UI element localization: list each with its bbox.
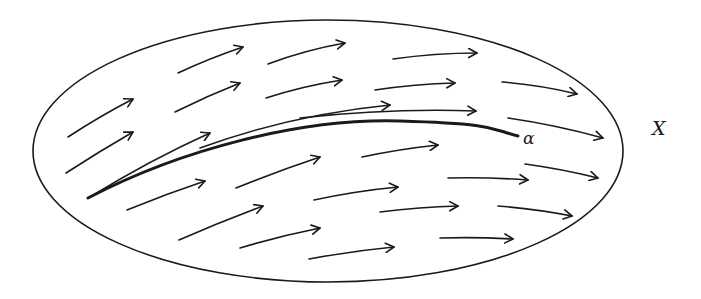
vector-field-diagram xyxy=(0,0,701,299)
curve-alpha-label: α xyxy=(523,130,534,147)
vector-arrow xyxy=(66,132,133,173)
region-X-boundary xyxy=(33,20,623,282)
vector-arrow xyxy=(362,145,438,157)
vector-arrow xyxy=(380,206,458,212)
vector-arrow xyxy=(236,157,320,188)
vector-arrow xyxy=(448,178,528,180)
vector-arrow xyxy=(200,105,390,148)
vector-arrow xyxy=(393,53,477,59)
vector-arrow xyxy=(179,206,263,240)
vector-field-arrows xyxy=(66,43,603,259)
vector-arrow xyxy=(268,43,345,64)
vector-arrow xyxy=(375,83,455,90)
vector-arrow xyxy=(178,47,243,73)
vector-arrow xyxy=(498,206,572,216)
vector-arrow xyxy=(266,80,342,98)
region-X-label: X xyxy=(652,119,666,138)
vector-arrow xyxy=(502,82,577,94)
curve-alpha xyxy=(88,121,518,198)
vector-arrow xyxy=(127,181,205,210)
vector-arrow xyxy=(175,83,240,112)
vector-arrow xyxy=(525,164,598,178)
vector-arrow xyxy=(440,238,513,239)
vector-arrow xyxy=(68,99,133,137)
vector-arrow xyxy=(314,187,398,200)
vector-arrow xyxy=(240,228,320,248)
vector-arrow xyxy=(309,247,394,259)
